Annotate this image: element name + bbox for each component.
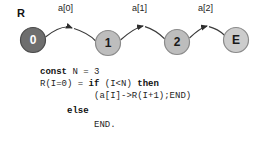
state-node-end-label: E xyxy=(232,33,240,47)
code-line-3: else xyxy=(67,105,89,117)
root-state-label: R xyxy=(17,7,25,19)
code-keyword-0-0: const xyxy=(40,67,67,77)
state-node-1-label: 1 xyxy=(105,36,112,50)
figure-root: 0 1 2 E R a[0] a[1] a[2] const N = 3R(I=… xyxy=(0,0,263,144)
edge-a1-path xyxy=(121,26,144,40)
code-line-4: END. xyxy=(94,119,116,131)
code-line-0: const N = 3 xyxy=(40,66,99,78)
state-node-0-label: 0 xyxy=(30,33,37,47)
code-text-2-0: (a[I]->R(I+1);END) xyxy=(94,91,191,101)
code-text-4-0: END. xyxy=(94,120,116,130)
state-transition-diagram: 0 1 2 E R a[0] a[1] a[2] xyxy=(0,0,263,64)
code-line-1: R(I=0) = if (I<N) then xyxy=(40,78,159,90)
state-node-2-label: 2 xyxy=(174,35,181,49)
code-text-1-0: R(I=0) = xyxy=(40,79,89,89)
code-keyword-1-1: if xyxy=(89,79,100,89)
edge-label-a1: a[1] xyxy=(132,3,147,13)
code-keyword-3-0: else xyxy=(67,106,89,116)
code-text-0-1: N = 3 xyxy=(67,67,99,77)
code-line-2: (a[I]->R(I+1);END) xyxy=(94,90,191,102)
code-text-1-2: (I<N) xyxy=(99,79,137,89)
edge-a0-tail xyxy=(74,29,96,41)
edge-a0-path xyxy=(46,27,73,37)
edges-group xyxy=(46,26,225,41)
edge-label-a0: a[0] xyxy=(58,3,73,13)
edge-a2-path xyxy=(190,26,208,38)
code-keyword-1-3: then xyxy=(137,79,159,89)
nodes-group: 0 1 2 E xyxy=(21,28,249,56)
edge-a2-tail xyxy=(209,27,224,35)
edge-a1-tail xyxy=(145,27,165,39)
edge-label-a2: a[2] xyxy=(198,3,213,13)
process-definition-code: const N = 3R(I=0) = if (I<N) then(a[I]->… xyxy=(0,64,263,144)
